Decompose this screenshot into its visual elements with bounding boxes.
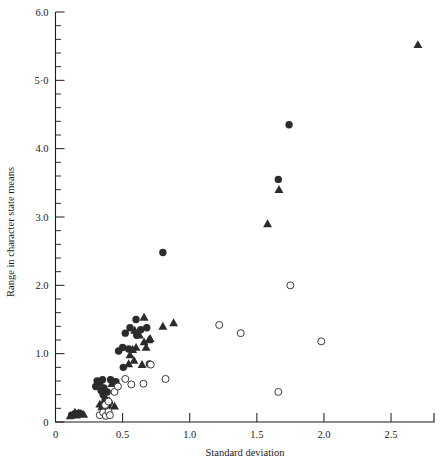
data-point-filled-circle bbox=[103, 388, 110, 395]
scatter-plot-figure: 01.02.03.04.05·06.0 00.51.01.52.02.5 Sta… bbox=[0, 0, 446, 461]
data-point-filled-circle bbox=[159, 249, 166, 256]
x-tick-label: 2.0 bbox=[317, 429, 330, 440]
series-filled-circle bbox=[68, 121, 293, 419]
x-tick-label: 1.5 bbox=[250, 429, 263, 440]
x-tick-label: 1.0 bbox=[183, 429, 196, 440]
data-point-open-circle bbox=[318, 338, 325, 345]
data-point-open-circle bbox=[216, 321, 223, 328]
data-point-open-circle bbox=[275, 388, 282, 395]
scatter-plot-canvas: 01.02.03.04.05·06.0 00.51.01.52.02.5 Sta… bbox=[0, 0, 446, 461]
y-tick-label: 0 bbox=[43, 417, 48, 428]
data-point-filled-triangle bbox=[275, 185, 284, 193]
data-point-filled-circle bbox=[275, 176, 282, 183]
x-axis-title: Standard deviation bbox=[205, 447, 285, 458]
y-axis-major-ticks bbox=[56, 12, 65, 422]
data-point-filled-triangle bbox=[413, 40, 422, 48]
data-point-open-circle bbox=[105, 398, 112, 405]
series-filled-triangle bbox=[66, 40, 423, 419]
data-point-filled-triangle bbox=[138, 360, 147, 368]
data-point-filled-circle bbox=[99, 376, 106, 383]
y-tick-label: 5·0 bbox=[35, 75, 49, 86]
data-point-open-circle bbox=[287, 282, 294, 289]
x-axis-tick-labels: 00.51.01.52.02.5 bbox=[53, 429, 398, 440]
data-point-filled-circle bbox=[143, 324, 150, 331]
x-tick-label: 2.5 bbox=[384, 429, 397, 440]
x-axis-major-ticks bbox=[123, 413, 391, 422]
data-point-filled-triangle bbox=[158, 322, 167, 330]
data-point-open-circle bbox=[128, 381, 135, 388]
y-axis-tick-labels: 01.02.03.04.05·06.0 bbox=[35, 7, 49, 428]
data-point-filled-triangle bbox=[146, 334, 155, 342]
y-tick-label: 3.0 bbox=[35, 212, 48, 223]
x-tick-label: 0 bbox=[53, 429, 58, 440]
data-point-filled-circle bbox=[285, 121, 292, 128]
y-tick-label: 6.0 bbox=[35, 7, 48, 18]
data-point-open-circle bbox=[237, 330, 244, 337]
data-point-filled-triangle bbox=[263, 219, 272, 227]
data-point-open-circle bbox=[147, 361, 154, 368]
x-tick-label: 0.5 bbox=[116, 429, 129, 440]
data-point-filled-triangle bbox=[169, 318, 178, 326]
data-point-open-circle bbox=[114, 383, 121, 390]
axes-group bbox=[56, 12, 435, 422]
data-point-markers bbox=[66, 40, 423, 419]
data-point-filled-circle bbox=[132, 316, 139, 323]
y-tick-label: 4.0 bbox=[35, 143, 48, 154]
y-tick-label: 2.0 bbox=[35, 280, 48, 291]
axis-frame bbox=[56, 12, 435, 422]
data-point-open-circle bbox=[106, 412, 113, 419]
data-point-open-circle bbox=[162, 375, 169, 382]
y-axis-title: Range in character state means bbox=[5, 167, 16, 297]
data-point-filled-triangle bbox=[140, 313, 149, 321]
data-point-open-circle bbox=[122, 375, 129, 382]
y-tick-label: 1.0 bbox=[35, 348, 48, 359]
data-point-open-circle bbox=[140, 380, 147, 387]
